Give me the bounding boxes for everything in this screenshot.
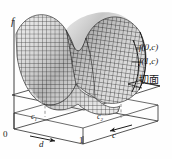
callout-label-cutting-plane: 切面 (139, 75, 159, 85)
tick-label-c1: c1 (31, 113, 37, 123)
callout-label-f-1-c: f(1,c) (139, 57, 158, 66)
unit-label: 1 (79, 136, 84, 145)
figure-canvas: f 0 1 c1 c2 d c f(0,c) f(1,c) 切面 (0, 0, 172, 159)
tick-label-c2: c2 (97, 113, 103, 123)
c2-subscript: 2 (101, 117, 103, 122)
vector-label-c: c (112, 131, 116, 140)
origin-label: 0 (3, 130, 8, 139)
vector-label-d: d (39, 140, 44, 149)
axis-label-f: f (11, 16, 14, 27)
c1-subscript: 1 (35, 117, 37, 122)
callout-label-f-0-c: f(0,c) (139, 43, 158, 52)
